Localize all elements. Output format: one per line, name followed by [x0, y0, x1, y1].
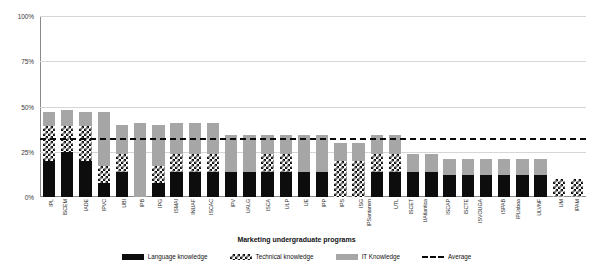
bar-slot[interactable] [277, 16, 295, 197]
stacked-bar[interactable] [571, 179, 583, 197]
bar-slot[interactable] [513, 16, 531, 197]
legend-label: Average [448, 253, 471, 260]
bar-slot[interactable] [258, 16, 276, 197]
bar-segment [170, 154, 182, 172]
legend-label: Language knowledge [148, 253, 208, 260]
stacked-bar[interactable] [134, 123, 146, 197]
bar-slot[interactable] [386, 16, 404, 197]
legend-item[interactable]: Language knowledge [122, 253, 208, 260]
bar-segment [79, 112, 91, 126]
stacked-bar[interactable] [170, 123, 182, 197]
x-axis-tick-label: UAtlantica [423, 199, 429, 223]
stacked-bar[interactable] [334, 143, 346, 197]
stacked-bar[interactable] [116, 125, 128, 197]
x-axis-tick-label: IPB [139, 199, 145, 207]
stacked-bar[interactable] [261, 135, 273, 197]
stacked-bar[interactable] [298, 135, 310, 197]
stacked-bar[interactable] [280, 135, 292, 197]
legend-item[interactable]: Technical knowledge [230, 253, 314, 260]
bar-slot[interactable] [167, 16, 185, 197]
legend-swatch [422, 256, 444, 258]
bar-slot[interactable] [368, 16, 386, 197]
stacked-bar[interactable] [243, 135, 255, 197]
stacked-bar[interactable] [534, 159, 546, 197]
stacked-bar[interactable] [443, 159, 455, 197]
bar-segment [352, 161, 364, 197]
bar-slot[interactable] [313, 16, 331, 197]
bar-segment [43, 126, 55, 160]
bar-slot[interactable] [404, 16, 422, 197]
stacked-bar[interactable] [98, 112, 110, 197]
x-axis-tick-label: ULVNF [535, 199, 541, 216]
stacked-bar[interactable] [498, 159, 510, 197]
bar-segment [79, 126, 91, 160]
bar-slot[interactable] [95, 16, 113, 197]
x-axis-tick-label: UALG [245, 199, 251, 213]
bar-slot[interactable] [295, 16, 313, 197]
bar-slot[interactable] [186, 16, 204, 197]
stacked-bar[interactable] [352, 143, 364, 197]
stacked-bar[interactable] [189, 123, 201, 197]
bar-slot[interactable] [131, 16, 149, 197]
bar-segment [134, 123, 146, 197]
stacked-bar[interactable] [225, 135, 237, 197]
bar-slot[interactable] [76, 16, 94, 197]
stacked-bar[interactable] [553, 179, 565, 197]
bar-segment [189, 154, 201, 172]
legend-swatch [230, 254, 252, 260]
bar-slot[interactable] [477, 16, 495, 197]
bar-slot[interactable] [113, 16, 131, 197]
stacked-bar[interactable] [389, 135, 401, 197]
bar-segment [280, 154, 292, 172]
stacked-bar[interactable] [152, 125, 164, 197]
bar-segment [498, 159, 510, 175]
x-axis-tick-label: IPG [157, 199, 163, 208]
bar-slot[interactable] [222, 16, 240, 197]
x-axis-tick-label: IPVC [101, 199, 107, 211]
bar-segment [334, 143, 346, 161]
x-axis-tick-label: ISCTE [463, 199, 469, 214]
x-axis-tick-label: ISCAC [208, 199, 214, 215]
x-axis-tick-label: IPS [339, 199, 345, 207]
legend-item[interactable]: IT Knowledge [336, 253, 400, 260]
stacked-bar[interactable] [407, 154, 419, 197]
bar-slot[interactable] [40, 16, 58, 197]
stacked-bar[interactable] [43, 112, 55, 197]
bar-slot[interactable] [422, 16, 440, 197]
bar-slot[interactable] [531, 16, 549, 197]
bar-slot[interactable] [240, 16, 258, 197]
bar-segment [225, 172, 237, 197]
bar-slot[interactable] [550, 16, 568, 197]
x-axis-tick-label: IPL [48, 199, 54, 207]
stacked-bar[interactable] [480, 159, 492, 197]
bar-slot[interactable] [204, 16, 222, 197]
bar-segment [170, 172, 182, 197]
bar-segment [462, 159, 474, 175]
x-axis-tick-label: ULP [284, 199, 290, 209]
bar-segment [43, 112, 55, 126]
stacked-bar[interactable] [79, 112, 91, 197]
bar-slot[interactable] [349, 16, 367, 197]
bar-slot[interactable] [331, 16, 349, 197]
stacked-bar[interactable] [425, 154, 437, 197]
bar-slot[interactable] [459, 16, 477, 197]
stacked-bar[interactable] [516, 159, 528, 197]
y-axis-tick-label: 100% [0, 13, 34, 20]
stacked-bar[interactable] [371, 135, 383, 197]
bar-slot[interactable] [568, 16, 586, 197]
bar-slot[interactable] [495, 16, 513, 197]
bar-segment [480, 159, 492, 175]
stacked-bar[interactable] [207, 123, 219, 197]
stacked-bar[interactable] [316, 135, 328, 197]
bar-segment [571, 179, 583, 197]
x-axis-title: Marketing undergraduate programs [0, 236, 593, 243]
x-axis-tick-label: IPV [230, 199, 236, 207]
stacked-bar[interactable] [61, 110, 73, 197]
bar-slot[interactable] [58, 16, 76, 197]
legend-item[interactable]: Average [422, 253, 471, 260]
stacked-bar[interactable] [462, 159, 474, 197]
bar-segment [116, 172, 128, 197]
bar-segment [425, 154, 437, 172]
bar-slot[interactable] [149, 16, 167, 197]
bar-slot[interactable] [440, 16, 458, 197]
